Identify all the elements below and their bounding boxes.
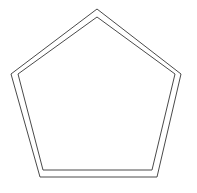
pentagon-figure (0, 0, 197, 193)
figure-canvas (0, 0, 197, 193)
figure-background (0, 0, 197, 193)
